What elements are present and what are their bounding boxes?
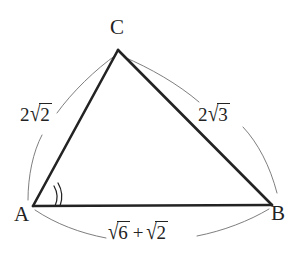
- radical-coefficient: 2: [20, 105, 30, 124]
- radical-expression: 2√2: [20, 103, 52, 124]
- leader-arc-side-ab-right: [197, 209, 269, 236]
- side-length-label-ab: √6 + √2: [108, 221, 168, 242]
- vertex-label-c: C: [110, 17, 124, 38]
- angle-arc-a-inner: [54, 186, 57, 206]
- leader-arc-side-cb-lower: [243, 127, 277, 193]
- plus-operator: +: [130, 223, 147, 242]
- side-length-label-cb: 2√3: [198, 103, 230, 124]
- leader-arc-side-ac-upper: [57, 55, 116, 113]
- radical-radicand: 2: [155, 221, 168, 242]
- side-length-label-ac: 2√2: [20, 103, 52, 124]
- triangle-figure: A B C 2√2 2√3 √6 + √2: [0, 0, 301, 260]
- radical-coefficient: 2: [198, 105, 208, 124]
- radical-expression: 2√3: [198, 103, 230, 124]
- triangle-side-ab: [33, 205, 272, 206]
- radical-radicand: 3: [217, 103, 230, 124]
- radical-surd-icon: √: [108, 220, 119, 243]
- vertex-label-a: A: [14, 204, 29, 225]
- radical-radicand: 6: [117, 221, 130, 242]
- triangle-side-ac: [33, 50, 118, 206]
- leader-arc-side-ab-left: [35, 210, 106, 238]
- radical-surd-icon: √: [208, 102, 219, 125]
- triangle-side-cb: [118, 50, 272, 205]
- radical-surd-icon: √: [30, 102, 41, 125]
- angle-arc-a-outer: [58, 183, 62, 206]
- radical-surd-icon: √: [146, 220, 157, 243]
- radical-expression-second: √2: [146, 221, 168, 242]
- vertex-label-b: B: [271, 203, 285, 224]
- radical-radicand: 2: [39, 103, 52, 124]
- radical-expression-first: √6: [108, 221, 130, 242]
- leader-arc-side-ac-lower: [28, 135, 42, 200]
